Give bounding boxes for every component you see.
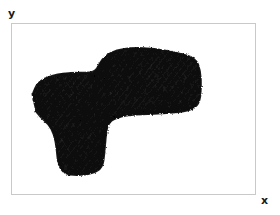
x-axis-label: x <box>261 195 268 206</box>
scribble-trace <box>12 24 255 194</box>
plot-frame <box>11 23 256 195</box>
y-axis-label: y <box>8 8 15 19</box>
plot-figure: y <box>0 0 280 215</box>
